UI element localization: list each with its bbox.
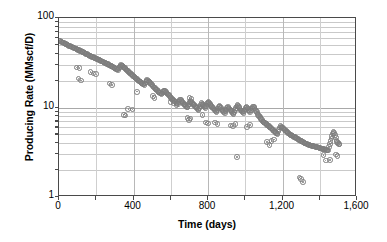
y-tick-mark (55, 31, 59, 32)
gridline-vertical (171, 18, 172, 195)
x-tick-mark (244, 196, 245, 200)
y-axis-tick-labels: 110100 (0, 0, 54, 242)
data-point (327, 157, 333, 163)
gridline-horizontal (59, 112, 355, 113)
y-tick-mark (55, 153, 59, 154)
y-tick-mark (55, 142, 59, 143)
gridline-vertical (283, 18, 284, 195)
plot-area (58, 17, 356, 196)
y-tick-label: 100 (37, 10, 54, 21)
y-tick-mark (55, 120, 59, 121)
data-point (215, 121, 221, 127)
data-point (271, 137, 277, 143)
data-point (123, 113, 129, 119)
chart-figure: Producing Rate (MMscf/D) 110100 04008001… (0, 0, 387, 242)
x-tick-mark (207, 196, 208, 200)
y-tick-mark (55, 115, 59, 116)
y-tick-mark (55, 26, 59, 27)
x-tick-label: 400 (124, 200, 141, 211)
x-tick-mark (58, 196, 59, 200)
data-point (78, 78, 84, 84)
x-tick-label: 800 (199, 200, 216, 211)
y-tick-mark (55, 17, 59, 18)
gridline-horizontal (59, 170, 355, 171)
y-tick-mark (55, 44, 59, 45)
x-tick-mark (170, 196, 171, 200)
x-tick-mark (133, 196, 134, 200)
gridline-vertical (320, 18, 321, 195)
x-tick-label: 0 (55, 200, 61, 211)
data-point (234, 154, 240, 160)
gridline-horizontal (59, 154, 355, 155)
x-axis-title: Time (days) (58, 218, 356, 230)
gridline-horizontal (59, 127, 355, 128)
y-tick-mark (55, 21, 59, 22)
y-tick-mark (55, 169, 59, 170)
data-point (77, 65, 83, 71)
x-tick-mark (319, 196, 320, 200)
data-point (205, 121, 211, 127)
y-tick-mark (55, 107, 59, 108)
gridline-horizontal (59, 54, 355, 55)
data-point (337, 142, 343, 148)
y-tick-mark (55, 133, 59, 134)
data-point (300, 179, 306, 185)
data-point (152, 95, 158, 101)
y-tick-mark (55, 111, 59, 112)
gridline-horizontal (59, 38, 355, 39)
gridline-vertical (96, 18, 97, 195)
x-tick-mark (95, 196, 96, 200)
gridline-horizontal (59, 81, 355, 82)
y-tick-mark (55, 37, 59, 38)
gridline-horizontal (59, 116, 355, 117)
data-point (93, 71, 99, 77)
data-point (247, 122, 253, 128)
x-tick-mark (282, 196, 283, 200)
x-tick-label: 1,200 (269, 200, 294, 211)
data-point (174, 102, 180, 108)
y-tick-mark (55, 80, 59, 81)
gridline-horizontal (59, 27, 355, 28)
data-point (109, 82, 115, 88)
y-tick-mark (55, 64, 59, 65)
gridline-horizontal (59, 32, 355, 33)
data-point (200, 112, 206, 118)
data-point (335, 153, 341, 159)
y-tick-mark (55, 53, 59, 54)
x-tick-label: 1,600 (343, 200, 368, 211)
gridline-horizontal (59, 22, 355, 23)
y-tick-label: 10 (43, 100, 54, 111)
data-point (134, 89, 140, 95)
x-tick-mark (356, 196, 357, 200)
y-tick-mark (55, 126, 59, 127)
y-tick-label: 1 (48, 189, 54, 200)
data-point (233, 121, 239, 127)
gridline-horizontal (59, 45, 355, 46)
gridline-horizontal (59, 134, 355, 135)
data-point (321, 152, 327, 158)
